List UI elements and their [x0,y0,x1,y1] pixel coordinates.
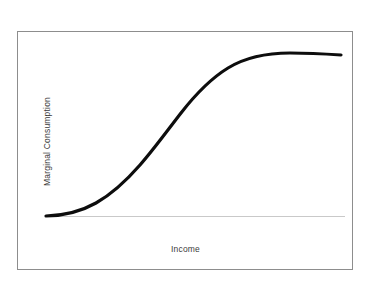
figure-container: Marginal Consumption Income [0,0,371,293]
x-axis-label: Income [0,244,371,254]
y-axis-label: Marginal Consumption [42,97,52,186]
marginal-consumption-curve [46,53,341,216]
